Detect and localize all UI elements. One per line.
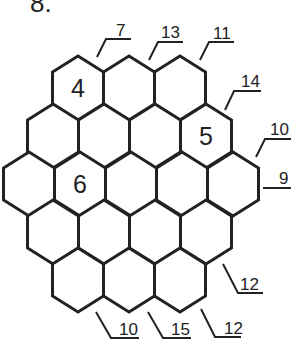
leader-line xyxy=(97,39,131,57)
clue-bottom-2: 15 xyxy=(148,312,191,339)
clue-bottom-1: 10 xyxy=(96,312,139,339)
cell-value: 4 xyxy=(71,74,85,102)
hex-cell[interactable] xyxy=(53,248,104,312)
clue-value: 14 xyxy=(241,72,260,91)
clue-value: 13 xyxy=(161,23,180,42)
clue-value: 10 xyxy=(270,120,289,139)
leader-line xyxy=(200,42,234,60)
hex-cell[interactable] xyxy=(104,248,155,312)
clue-value: 12 xyxy=(240,275,259,294)
clue-top-2: 13 xyxy=(149,23,183,60)
clue-top-3: 11 xyxy=(200,24,234,60)
hex-sum-puzzle: 8. 456 7 13 11 14 10 9 12 12 15 10 xyxy=(0,0,291,344)
clue-right-2: 10 xyxy=(256,120,291,157)
hexagon-shape xyxy=(104,248,155,312)
cell-value: 6 xyxy=(73,170,87,198)
clue-right-3: 9 xyxy=(263,169,291,188)
hex-cell[interactable] xyxy=(155,248,206,312)
clue-value: 9 xyxy=(279,169,288,188)
puzzle-number-label: 8. xyxy=(30,0,52,18)
cell-value: 5 xyxy=(199,122,213,150)
clue-top-1: 7 xyxy=(97,21,131,57)
leader-line xyxy=(256,139,291,157)
clue-bottom-right-1: 12 xyxy=(223,264,263,294)
clue-right-1: 14 xyxy=(225,72,261,110)
clue-value: 15 xyxy=(171,320,190,339)
clue-value: 12 xyxy=(224,319,243,338)
clue-bottom-right-2: 12 xyxy=(201,309,243,338)
clue-value: 7 xyxy=(116,21,125,40)
hexagon-shape xyxy=(53,248,104,312)
leader-line xyxy=(225,91,261,110)
clue-value: 10 xyxy=(119,320,138,339)
hexagon-shape xyxy=(155,248,206,312)
hex-grid: 456 xyxy=(4,56,259,312)
clue-value: 11 xyxy=(213,24,231,43)
